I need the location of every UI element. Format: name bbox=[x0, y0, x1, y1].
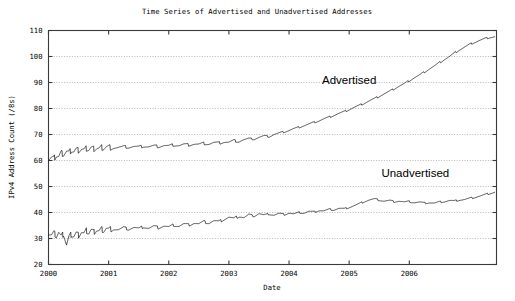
x-tick-label: 2002 bbox=[160, 269, 177, 278]
y-tick-label: 50 bbox=[34, 182, 43, 191]
time-series-chart: Time Series of Advertised and Unadvertis… bbox=[0, 0, 515, 301]
annotation-unadvertised: Unadvertised bbox=[381, 167, 449, 179]
chart-title: Time Series of Advertised and Unadvertis… bbox=[142, 7, 372, 16]
x-tick-label: 2000 bbox=[40, 269, 57, 278]
x-tick-label: 2001 bbox=[100, 269, 117, 278]
y-tick-label: 40 bbox=[34, 208, 43, 217]
y-axis-label: IPv4 Address Count (/8s) bbox=[7, 95, 16, 199]
y-tick-label: 30 bbox=[34, 234, 43, 243]
annotation-advertised: Advertised bbox=[322, 74, 376, 86]
x-tick-label: 2003 bbox=[220, 269, 237, 278]
y-tick-label: 110 bbox=[30, 26, 43, 35]
x-axis-label: Date bbox=[263, 283, 280, 292]
y-tick-label: 100 bbox=[30, 52, 43, 61]
y-tick-label: 80 bbox=[34, 104, 43, 113]
chart-background bbox=[0, 0, 515, 301]
x-tick-label: 2006 bbox=[401, 269, 418, 278]
chart-screenshot: Time Series of Advertised and Unadvertis… bbox=[0, 0, 515, 301]
x-tick-label: 2005 bbox=[341, 269, 358, 278]
x-tick-label: 2004 bbox=[280, 269, 297, 278]
y-tick-label: 60 bbox=[34, 156, 43, 165]
y-tick-label: 70 bbox=[34, 130, 43, 139]
y-tick-label: 90 bbox=[34, 78, 43, 87]
